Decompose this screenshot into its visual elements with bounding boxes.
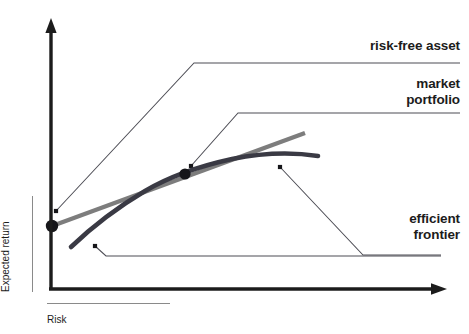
y-axis-label: Expected return (0, 196, 11, 292)
capital-market-line (52, 133, 305, 226)
callout-label-risk-free-asset: risk-free asset (370, 38, 460, 54)
leader-line-risk-free-asset (56, 63, 460, 211)
risk-free-asset-dot (54, 209, 58, 213)
efficient-frontier-lower-dot (93, 244, 97, 248)
market-portfolio-point (179, 168, 190, 179)
x-axis-arrowhead (431, 283, 447, 295)
capital-market-line-figure: Expected return Risk risk-free asset mar… (0, 0, 469, 334)
callout-label-efficient-frontier: efficient frontier (409, 211, 460, 242)
efficient-frontier-dot (278, 165, 282, 169)
y-axis-arrowhead (45, 18, 56, 33)
x-axis-label-rule (47, 303, 170, 304)
x-axis-label: Risk (47, 314, 66, 325)
callout-label-market-portfolio: market portfolio (406, 76, 460, 107)
y-axis-label-rule (32, 196, 33, 292)
callout-leader-lines (56, 63, 460, 256)
